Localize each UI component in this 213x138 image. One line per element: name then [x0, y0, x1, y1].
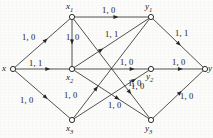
graph-node-x [10, 66, 15, 71]
graph-node-x3 [69, 117, 74, 122]
graph-edge-x1-y1 [75, 15, 149, 19]
flow-network-figure: xx1x2x3y1y2y3y1, 01, 11, 01, 01, 01, 01,… [0, 0, 213, 138]
edge-arrowhead [178, 67, 183, 71]
edge-arrowhead [93, 86, 98, 91]
graph-node-y2 [148, 66, 153, 71]
edge-arrowhead [130, 67, 135, 71]
graph-canvas [0, 0, 213, 138]
graph-edge-y2-y [154, 67, 203, 71]
graph-edge-x-x2 [16, 67, 70, 71]
graph-edge-x-x3 [15, 71, 70, 119]
graph-node-x2 [69, 66, 74, 71]
edge-arrowhead [131, 79, 136, 83]
graph-edge-x2-y1 [74, 18, 149, 67]
graph-edge-y1-y [153, 19, 203, 67]
graph-node-y1 [148, 14, 153, 19]
edge-arrowhead [113, 15, 118, 19]
edge-arrowhead [70, 40, 74, 45]
graph-node-y3 [148, 117, 153, 122]
graph-node-x1 [69, 14, 74, 19]
edge-arrowhead [114, 95, 119, 99]
graph-edge-x-x1 [15, 19, 70, 68]
edge-arrowhead [127, 89, 132, 94]
graph-edge-y3-y [153, 71, 203, 118]
edge-arrowhead [45, 67, 50, 71]
graph-edge-x1-x2 [70, 20, 74, 67]
graph-node-y [202, 66, 207, 71]
